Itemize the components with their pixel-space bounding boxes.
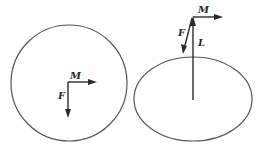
figure-right-ellipse: L M F [134, 4, 252, 141]
figure-left-circle: M F [11, 25, 127, 141]
circle-outline [11, 25, 127, 141]
diagram-canvas: M F L M F [0, 0, 263, 154]
length-label: L [197, 37, 205, 48]
moment-label: M [69, 70, 82, 81]
force-arrow-icon [65, 82, 71, 118]
moment-label: M [197, 4, 210, 15]
length-rod-icon [190, 16, 196, 100]
force-label: F [57, 90, 66, 101]
force-label: F [177, 27, 186, 38]
